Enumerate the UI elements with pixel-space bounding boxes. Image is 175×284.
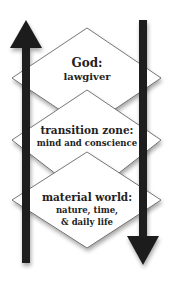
level-material-title: material world: [42,191,132,203]
level-material-desc-1: nature, time, [56,205,118,216]
level-transition-title: transition zone: [40,124,133,136]
up-arrow-shaft-front-3 [22,160,30,263]
level-god-title: God: [71,56,102,70]
level-material-desc-2: & daily life [61,217,114,227]
level-god-desc: lawgiver [63,71,111,82]
diagram: God: lawgiver transition zone: mind and … [0,0,175,284]
level-transition-desc: mind and conscience [37,138,138,148]
down-arrowhead-icon [127,236,159,265]
up-arrowhead-icon [10,20,42,48]
down-arrow-shaft-front-3 [139,160,147,238]
